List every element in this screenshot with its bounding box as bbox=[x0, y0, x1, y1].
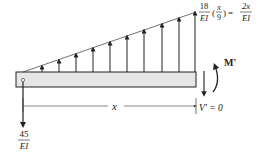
moment-arrow bbox=[213, 66, 218, 92]
shear-label: V' = 0 bbox=[199, 103, 223, 113]
pin-icon bbox=[21, 78, 24, 81]
svg-text:EI: EI bbox=[19, 141, 29, 151]
svg-text:EI: EI bbox=[199, 13, 209, 23]
conjugate-beam-diagram: x V' = 0 M' 18 EI ( x 9 ) = 2x EI 45 EI bbox=[0, 0, 264, 158]
dimension-label: x bbox=[111, 100, 117, 112]
svg-text:2x: 2x bbox=[242, 1, 250, 11]
reaction-label: 45 EI bbox=[18, 129, 30, 151]
load-intensity-label: 18 EI ( x 9 ) = 2x EI bbox=[199, 1, 252, 23]
svg-text:18: 18 bbox=[200, 1, 209, 11]
svg-text:x: x bbox=[216, 3, 221, 12]
distributed-load-arrows bbox=[42, 13, 195, 72]
svg-text:(: ( bbox=[212, 8, 215, 18]
moment-label: M' bbox=[224, 57, 236, 68]
svg-text:): ) bbox=[223, 8, 226, 18]
svg-text:45: 45 bbox=[20, 129, 30, 139]
svg-text:=: = bbox=[228, 8, 233, 18]
svg-text:9: 9 bbox=[217, 13, 221, 22]
beam bbox=[16, 72, 196, 87]
svg-text:EI: EI bbox=[241, 13, 251, 23]
